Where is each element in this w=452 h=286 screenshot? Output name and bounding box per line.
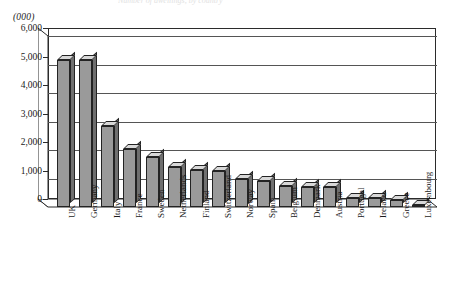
x-axis-label-belgium: Belgium <box>289 187 299 218</box>
x-axis-label-switzerland: Switzerland <box>223 175 233 218</box>
chart-root: Number of dwellings, by country (000) 6,… <box>0 0 452 286</box>
x-axis-label-luxembourg: Luxembourg <box>423 172 433 218</box>
plot-area: 6,0005,0004,0003,0002,0001,0000 UKGerman… <box>0 0 452 286</box>
x-axis-label-sweden: Sweden <box>156 190 166 219</box>
x-axis-label-spain: Spain <box>267 197 277 218</box>
x-axis-label-germany: Germany <box>89 185 99 219</box>
x-axis-label-ireland: Ireland <box>378 193 388 218</box>
x-axis-label-uk: UK <box>67 205 77 218</box>
x-axis-label-finland: Finland <box>201 190 211 218</box>
x-axis-label-portugal: Portugal <box>356 188 366 219</box>
x-axis-label-austria: Austria <box>334 192 344 219</box>
x-axis-label-greece: Greece <box>401 193 411 218</box>
x-axis-label-norway: Norway <box>245 189 255 218</box>
x-axis-label-france: France <box>134 194 144 219</box>
x-axis-label-italy: Italy <box>112 202 122 219</box>
x-axis-label-netherlands: Netherlands <box>178 175 188 218</box>
x-axis-label-denmark: Denmark <box>312 185 322 219</box>
x-axis-labels: UKGermanyItalyFranceSwedenNetherlandsFin… <box>0 0 452 286</box>
